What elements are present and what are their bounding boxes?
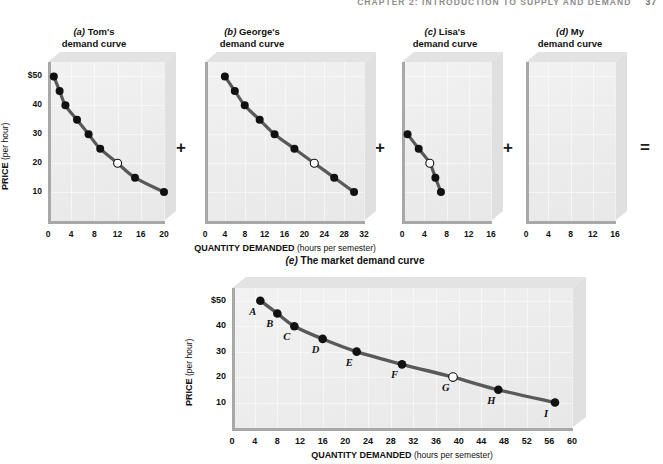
chart-market: 10203040$50PRICE (per hour)0481216202428… (0, 0, 663, 464)
data-point (352, 347, 361, 356)
point-label-b: B (266, 318, 273, 329)
curve-path (260, 301, 555, 403)
point-label-i: I (544, 408, 548, 419)
data-point (290, 322, 299, 331)
data-point (318, 335, 327, 344)
data-point (398, 360, 407, 369)
point-label-c: C (283, 331, 290, 342)
data-point (551, 398, 560, 407)
point-label-e: E (346, 357, 353, 368)
point-label-g: G (442, 382, 450, 393)
point-label-h: H (487, 395, 495, 406)
point-label-f: F (391, 369, 398, 380)
point-label-d: D (312, 344, 320, 355)
data-point-open (449, 373, 458, 382)
point-label-a: A (249, 306, 256, 317)
demand-curve-market (0, 0, 663, 464)
data-point (273, 309, 282, 318)
figure-page: CHAPTER 2: INTRODUCTION TO SUPPLY AND DE… (0, 0, 663, 464)
data-point (494, 386, 503, 395)
data-point (256, 296, 265, 305)
